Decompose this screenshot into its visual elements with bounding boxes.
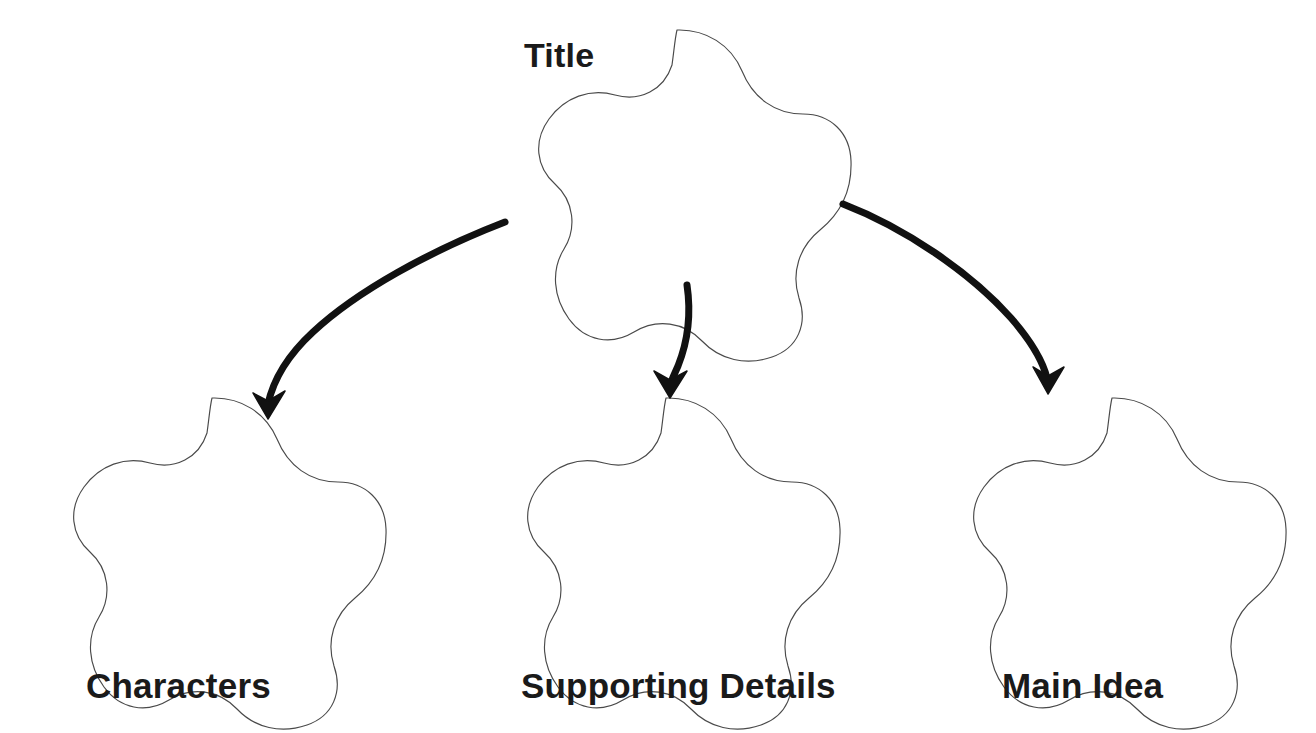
diagram-svg: [0, 0, 1316, 733]
connector-arrow-characters-shaft: [268, 222, 505, 404]
node-label-characters: Characters: [86, 668, 271, 703]
flower-outline-title: [539, 30, 851, 361]
node-label-main-idea: Main Idea: [1002, 668, 1163, 703]
node-label-supporting-details: Supporting Details: [521, 668, 836, 703]
connector-arrow-main-idea: [843, 204, 1064, 394]
graphic-organizer-canvas: Title Characters Supporting Details Main…: [0, 0, 1316, 733]
node-label-title: Title: [524, 38, 594, 72]
node-title-shape[interactable]: [539, 30, 851, 361]
connector-arrow-main-idea-shaft: [843, 204, 1047, 378]
connector-arrow-characters: [253, 222, 505, 419]
